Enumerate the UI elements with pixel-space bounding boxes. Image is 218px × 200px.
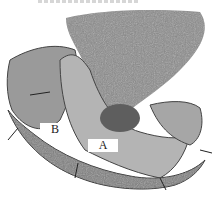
label-b: B [40, 123, 70, 136]
central-mass [100, 104, 140, 132]
illustration-drawing [0, 0, 218, 200]
cropped-caption [38, 0, 138, 3]
suture [8, 128, 18, 140]
anatomical-illustration: B A [0, 0, 218, 200]
suture [200, 150, 212, 153]
label-a: A [88, 139, 118, 152]
